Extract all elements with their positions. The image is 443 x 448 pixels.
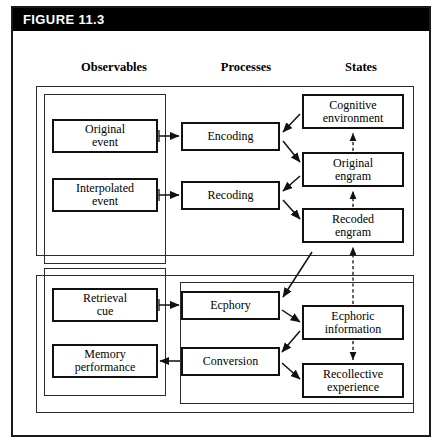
node-interpolated-event[interactable]: Interpolated event: [52, 178, 158, 212]
node-recoded-engram-line2: engram: [332, 226, 374, 239]
node-ecphoric-information-line2: information: [325, 323, 382, 336]
column-heading-processes: Processes: [186, 60, 306, 74]
node-recoded-engram[interactable]: Recoded engram: [302, 208, 404, 243]
node-recoded-engram-line1: Recoded: [332, 213, 374, 226]
node-recollective-experience-line1: Recollective: [323, 368, 383, 381]
node-retrieval-cue[interactable]: Retrieval cue: [52, 288, 158, 322]
node-retrieval-cue-line2: cue: [83, 305, 127, 318]
column-heading-observables: Observables: [44, 60, 184, 74]
node-conversion[interactable]: Conversion: [181, 347, 280, 376]
figure-container: FIGURE 11.3 Observables Processes States…: [0, 0, 443, 448]
node-original-engram-line1: Original: [333, 157, 373, 170]
node-conversion-label: Conversion: [203, 355, 258, 368]
node-recollective-experience-line2: experience: [323, 381, 383, 394]
node-cognitive-environment-line2: environment: [323, 112, 384, 125]
node-encoding-label: Encoding: [208, 130, 254, 143]
node-original-engram-line2: engram: [333, 170, 373, 183]
node-recoding[interactable]: Recoding: [181, 181, 280, 210]
node-ecphoric-information-line1: Ecphoric: [325, 310, 382, 323]
node-memory-performance[interactable]: Memory performance: [52, 344, 158, 378]
node-ecphoric-information[interactable]: Ecphoric information: [302, 305, 404, 340]
node-recollective-experience[interactable]: Recollective experience: [302, 363, 404, 398]
node-ecphory-label: Ecphory: [210, 299, 251, 312]
node-encoding[interactable]: Encoding: [181, 122, 280, 151]
figure-header-bar: FIGURE 11.3: [13, 8, 429, 31]
node-original-event[interactable]: Original event: [52, 119, 158, 153]
node-cognitive-environment-line1: Cognitive: [323, 99, 384, 112]
figure-number-label: FIGURE 11.3: [23, 11, 105, 28]
node-original-engram[interactable]: Original engram: [302, 152, 404, 187]
node-recoding-label: Recoding: [208, 189, 254, 202]
column-heading-states: States: [306, 60, 416, 74]
node-memory-performance-line2: performance: [75, 361, 136, 374]
node-interpolated-event-line2: event: [76, 195, 134, 208]
node-cognitive-environment[interactable]: Cognitive environment: [302, 94, 404, 129]
node-original-event-line2: event: [85, 136, 125, 149]
node-ecphory[interactable]: Ecphory: [181, 291, 280, 320]
